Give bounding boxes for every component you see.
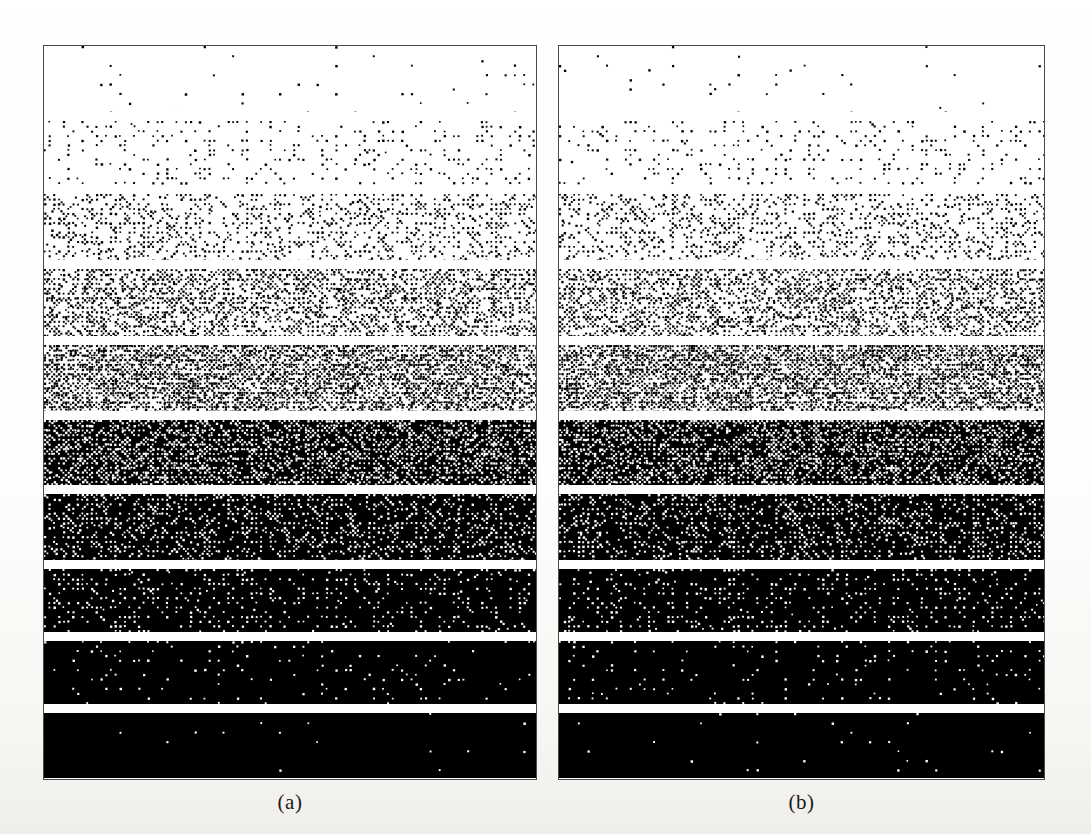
band-halftone-texture bbox=[559, 194, 1044, 260]
band-separator bbox=[559, 185, 1044, 194]
band-halftone-texture bbox=[559, 345, 1044, 411]
gradient-band bbox=[559, 269, 1044, 336]
band-separator bbox=[559, 411, 1044, 420]
band-separator bbox=[559, 560, 1044, 569]
gradient-band bbox=[44, 269, 536, 336]
band-halftone-texture bbox=[44, 569, 536, 632]
band-separator bbox=[44, 112, 536, 121]
gradient-band bbox=[44, 420, 536, 485]
panel-a bbox=[43, 45, 537, 780]
band-halftone-texture bbox=[44, 194, 536, 260]
gradient-band bbox=[559, 569, 1044, 632]
band-separator bbox=[559, 485, 1044, 494]
panel-b-caption: (b) bbox=[558, 790, 1045, 815]
band-halftone-texture bbox=[559, 494, 1044, 560]
band-separator bbox=[44, 560, 536, 569]
band-separator bbox=[44, 185, 536, 194]
band-halftone-texture bbox=[44, 641, 536, 704]
panel-b bbox=[558, 45, 1045, 780]
gradient-band bbox=[44, 345, 536, 411]
band-halftone-texture bbox=[44, 345, 536, 411]
panel-b-band-stack bbox=[559, 46, 1044, 779]
gradient-band bbox=[559, 713, 1044, 778]
band-separator bbox=[44, 260, 536, 269]
band-halftone-texture bbox=[559, 46, 1044, 112]
gradient-band bbox=[44, 494, 536, 560]
gradient-band bbox=[559, 345, 1044, 411]
panel-a-band-stack bbox=[44, 46, 536, 779]
band-halftone-texture bbox=[559, 269, 1044, 336]
gradient-band bbox=[559, 121, 1044, 185]
band-separator bbox=[559, 336, 1044, 345]
band-halftone-texture bbox=[44, 46, 536, 112]
band-separator bbox=[559, 260, 1044, 269]
band-halftone-texture bbox=[559, 569, 1044, 632]
band-separator bbox=[44, 485, 536, 494]
band-halftone-texture bbox=[44, 494, 536, 560]
band-halftone-texture bbox=[559, 641, 1044, 704]
band-separator bbox=[559, 704, 1044, 713]
figure-root: (a) (b) bbox=[0, 0, 1091, 834]
gradient-band bbox=[44, 121, 536, 185]
band-halftone-texture bbox=[44, 713, 536, 778]
band-separator bbox=[44, 632, 536, 641]
gradient-band bbox=[44, 194, 536, 260]
gradient-band bbox=[44, 641, 536, 704]
band-halftone-texture bbox=[44, 121, 536, 185]
band-separator bbox=[44, 411, 536, 420]
gradient-band bbox=[559, 194, 1044, 260]
gradient-band bbox=[44, 569, 536, 632]
band-separator bbox=[44, 704, 536, 713]
band-halftone-texture bbox=[559, 713, 1044, 778]
band-halftone-texture bbox=[559, 420, 1044, 485]
band-halftone-texture bbox=[44, 269, 536, 336]
band-separator bbox=[559, 112, 1044, 121]
panel-a-caption: (a) bbox=[43, 790, 537, 815]
gradient-band bbox=[559, 46, 1044, 112]
gradient-band bbox=[559, 641, 1044, 704]
band-separator bbox=[559, 632, 1044, 641]
gradient-band bbox=[559, 494, 1044, 560]
band-separator bbox=[44, 336, 536, 345]
band-halftone-texture bbox=[559, 121, 1044, 185]
gradient-band bbox=[44, 46, 536, 112]
gradient-band bbox=[559, 420, 1044, 485]
gradient-band bbox=[44, 713, 536, 778]
band-halftone-texture bbox=[44, 420, 536, 485]
